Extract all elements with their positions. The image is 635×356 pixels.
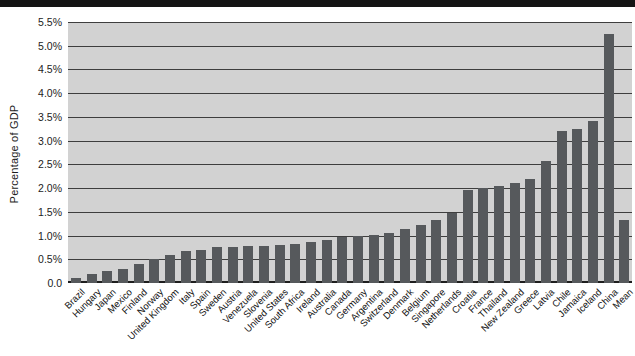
y-axis-tick-label: 5.5% (0, 16, 62, 28)
bar-latvia (541, 161, 551, 283)
bar-slovenia (259, 246, 269, 283)
y-axis-tick-label: 5.0% (0, 40, 62, 52)
x-axis-label: United States (243, 287, 290, 334)
x-axis-label: Jamaica (556, 287, 588, 319)
y-axis-tick-label: 1.0% (0, 230, 62, 242)
gridline (68, 69, 632, 70)
gridline (68, 117, 632, 118)
x-axis-label: United Kingdom (126, 287, 181, 342)
x-axis-label: Denmark (382, 287, 416, 321)
bar-argentina (369, 235, 379, 283)
x-axis-label: China (595, 287, 620, 312)
bar-spain (196, 250, 206, 283)
bar-mean (619, 220, 629, 283)
bar-hungary (87, 274, 97, 283)
y-axis-tick-label: 3.5% (0, 111, 62, 123)
bar-sweden (212, 247, 222, 283)
x-axis-label: Thailand (477, 287, 510, 320)
bar-mexico (118, 269, 128, 283)
y-axis-tick-label: 4.5% (0, 63, 62, 75)
bar-united-kingdom (165, 255, 175, 283)
x-axis-label: Belgium (400, 287, 431, 318)
x-axis-label: Croatia (450, 287, 479, 316)
x-axis-label: New Zealand (479, 287, 526, 334)
x-axis-label: Ireland (294, 287, 322, 315)
x-axis-label: Finland (120, 287, 149, 316)
bar-iceland (588, 121, 598, 283)
bar-switzerland (384, 233, 394, 283)
bar-denmark (400, 229, 410, 283)
x-axis-label: Brazil (63, 287, 87, 311)
bar-chile (557, 131, 567, 283)
bar-singapore (431, 220, 441, 283)
bar-south-africa (290, 244, 300, 283)
bar-venezuela (243, 246, 253, 283)
x-axis-label: Mexico (106, 287, 134, 315)
x-axis-label: Mean (611, 287, 635, 311)
bar-china (604, 34, 614, 283)
bar-thailand (494, 186, 504, 283)
x-axis-label: Argentina (349, 287, 385, 323)
bar-finland (134, 264, 144, 283)
x-axis-label: Australia (304, 287, 337, 320)
y-axis-tick-label: 0.5% (0, 253, 62, 265)
bar-jamaica (572, 129, 582, 283)
bar-belgium (416, 225, 426, 283)
bar-france (478, 188, 488, 283)
bar-germany (353, 236, 363, 283)
x-axis-label: Slovenia (242, 287, 275, 320)
bar-austria (228, 247, 238, 283)
y-axis-tick-label: 2.5% (0, 158, 62, 170)
x-axis-label: France (466, 287, 494, 315)
x-axis-label: Canada (323, 287, 354, 318)
gridline (68, 46, 632, 47)
bar-japan (102, 271, 112, 283)
bar-norway (149, 259, 159, 283)
x-axis-label: Sweden (197, 287, 228, 318)
y-axis-tick-label: 0.0 (0, 277, 62, 289)
x-axis-label: Chile (550, 287, 572, 309)
bar-chart: Percentage of GDP 5.5%5.0%4.5%4.0%3.5%3.… (0, 0, 635, 356)
x-axis-label: Iceland (575, 287, 604, 316)
y-axis-tick-label: 1.5% (0, 206, 62, 218)
x-axis-label: Greece (512, 287, 541, 316)
bar-brazil (71, 278, 81, 283)
x-axis-label: Switzerland (358, 287, 400, 329)
x-axis-label: Japan (93, 287, 118, 312)
x-axis-label: Latvia (532, 287, 557, 312)
x-axis-label: South Africa (263, 287, 306, 330)
bar-greece (525, 179, 535, 283)
bar-canada (337, 237, 347, 283)
x-axis-label: Singapore (410, 287, 448, 325)
bar-croatia (463, 190, 473, 283)
gridline (68, 141, 632, 142)
x-axis-label: Spain (188, 287, 212, 311)
x-axis-label: Hungary (70, 287, 102, 319)
bar-italy (181, 251, 191, 283)
bar-netherlands (447, 213, 457, 283)
plot-area (68, 22, 632, 283)
bar-new-zealand (510, 183, 520, 283)
x-axis-label: Germany (334, 287, 369, 322)
x-axis-label: Venezuela (221, 287, 259, 325)
y-axis-tick-label: 4.0% (0, 87, 62, 99)
y-axis-tick-label: 3.0% (0, 135, 62, 147)
bar-australia (322, 240, 332, 283)
x-axis-label: Norway (135, 287, 165, 317)
x-axis-label: Italy (177, 287, 196, 306)
gridline (68, 93, 632, 94)
x-axis-label: Netherlands (420, 287, 463, 330)
gridline (68, 22, 632, 23)
bar-ireland (306, 242, 316, 283)
x-axis-label: Austria (216, 287, 244, 315)
bar-united-states (275, 245, 285, 283)
y-axis-tick-label: 2.0% (0, 182, 62, 194)
